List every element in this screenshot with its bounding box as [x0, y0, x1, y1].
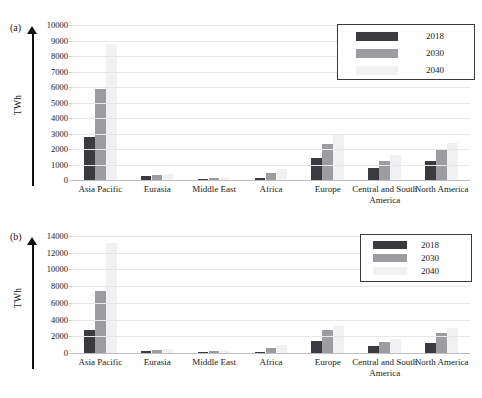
- legend-label-2018: 2018: [426, 31, 444, 41]
- y-axis-tick-label: 6000: [51, 299, 68, 308]
- legend-label-2030: 2030: [421, 253, 439, 263]
- y-axis-tick-mark: [69, 103, 72, 104]
- bar-2018: [84, 330, 95, 353]
- y-axis-tick-mark: [69, 180, 72, 181]
- bar-2040: [333, 135, 344, 180]
- y-axis-tick-label: 1000: [51, 161, 68, 170]
- y-axis-tick-mark: [69, 320, 72, 321]
- y-axis-tick-label: 2000: [51, 332, 68, 341]
- y-axis-tick-label: 10000: [47, 21, 68, 30]
- y-axis-tick-mark: [69, 165, 72, 166]
- y-axis-tick-mark: [69, 236, 72, 237]
- y-axis-title-b: TWh: [13, 278, 23, 318]
- chart-panel-b: (b) TWh 02000400060008000100001200014000…: [0, 215, 482, 398]
- x-axis-category-label: North America: [407, 184, 476, 195]
- legend-row-2030: 2030: [356, 48, 444, 58]
- bar-2030: [379, 342, 390, 353]
- panel-label-b: (b): [10, 231, 22, 242]
- legend-swatch-2018: [356, 32, 398, 41]
- y-axis-tick-label: 4000: [51, 316, 68, 325]
- bar-2040: [390, 339, 401, 353]
- y-axis-arrow-b: [26, 237, 39, 369]
- y-axis-tick-mark: [69, 336, 72, 337]
- legend-row-2040: 2040: [373, 266, 439, 276]
- y-axis-tick-label: 10000: [47, 265, 68, 274]
- gridline: [72, 320, 470, 321]
- legend-swatch-2030: [373, 254, 407, 262]
- y-axis-tick-label: 9000: [51, 37, 68, 46]
- y-axis-tick-mark: [69, 72, 72, 73]
- y-axis-tick-mark: [69, 134, 72, 135]
- bar-2018: [84, 137, 95, 180]
- y-axis-tick-mark: [69, 303, 72, 304]
- bar-2040: [333, 326, 344, 353]
- bar-2018: [368, 346, 379, 353]
- legend-swatch-2040: [356, 66, 398, 75]
- legend-row-2018: 2018: [373, 240, 439, 250]
- legend-row-2040: 2040: [356, 65, 444, 75]
- y-axis-tick-mark: [69, 41, 72, 42]
- y-axis-shaft-a: [32, 33, 34, 186]
- gridline: [72, 336, 470, 337]
- gridline: [72, 134, 470, 135]
- panel-label-a: (a): [10, 22, 21, 33]
- gridline: [72, 286, 470, 287]
- bar-2040: [390, 155, 401, 180]
- gridline: [72, 118, 470, 119]
- legend-a: 201820302040: [337, 24, 475, 80]
- x-axis-line: [72, 180, 470, 181]
- legend-label-2040: 2040: [421, 266, 439, 276]
- y-axis-tick-label: 14000: [47, 232, 68, 241]
- bar-2018: [311, 341, 322, 353]
- legend-swatch-2040: [373, 267, 407, 275]
- y-axis-shaft-b: [32, 244, 34, 369]
- y-axis-tick-label: 7000: [51, 68, 68, 77]
- y-axis-tick-mark: [69, 149, 72, 150]
- y-axis-tick-mark: [69, 353, 72, 354]
- bar-2018: [368, 168, 379, 180]
- legend-label-2030: 2030: [426, 48, 444, 58]
- y-axis-tick-label: 3000: [51, 130, 68, 139]
- gridline: [72, 87, 470, 88]
- legend-row-2030: 2030: [373, 253, 439, 263]
- y-axis-tick-mark: [69, 25, 72, 26]
- bar-2018: [311, 158, 322, 180]
- gridline: [72, 103, 470, 104]
- gridline: [72, 149, 470, 150]
- bar-2040: [447, 328, 458, 353]
- legend-swatch-2030: [356, 49, 398, 58]
- chart-panel-a: (a) TWh 01000200030004000500060007000800…: [0, 8, 482, 208]
- bar-2030: [266, 173, 277, 180]
- y-axis-tick-label: 6000: [51, 83, 68, 92]
- legend-row-2018: 2018: [356, 31, 444, 41]
- x-axis-line: [72, 353, 470, 354]
- y-axis-title-a: TWh: [13, 85, 23, 125]
- y-axis-tick-mark: [69, 56, 72, 57]
- bar-2040: [277, 169, 288, 180]
- bar-2030: [322, 330, 333, 353]
- y-axis-tick-label: 8000: [51, 52, 68, 61]
- y-axis-tick-mark: [69, 253, 72, 254]
- bar-2040: [106, 44, 117, 180]
- legend-swatch-2018: [373, 241, 407, 249]
- legend-label-2018: 2018: [421, 240, 439, 250]
- y-axis-tick-mark: [69, 269, 72, 270]
- x-axis-category-label: North America: [407, 357, 476, 368]
- y-axis-tick-label: 4000: [51, 114, 68, 123]
- gridline: [72, 303, 470, 304]
- y-axis-tick-mark: [69, 286, 72, 287]
- gridline: [72, 165, 470, 166]
- y-axis-tick-label: 2000: [51, 145, 68, 154]
- bar-2030: [95, 291, 106, 353]
- y-axis-tick-mark: [69, 118, 72, 119]
- legend-label-2040: 2040: [426, 65, 444, 75]
- y-axis-tick-mark: [69, 87, 72, 88]
- y-axis-tick-label: 5000: [51, 99, 68, 108]
- bar-2018: [425, 343, 436, 353]
- bar-2040: [277, 345, 288, 353]
- y-axis-arrow-a: [26, 26, 39, 186]
- legend-b: 201820302040: [360, 234, 472, 282]
- y-axis-tick-label: 12000: [47, 249, 68, 258]
- y-axis-tick-label: 8000: [51, 282, 68, 291]
